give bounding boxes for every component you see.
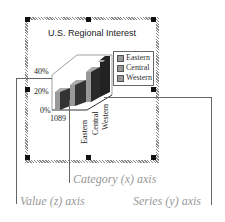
resize-handle-bl[interactable] — [25, 155, 30, 160]
legend-item-eastern: Eastern — [117, 53, 150, 62]
series-axis-leader-v — [211, 97, 212, 205]
swatch-icon — [117, 55, 124, 62]
series-label-eastern: Eastern — [80, 120, 89, 144]
series-axis-leader-h — [104, 97, 212, 98]
resize-handle-br[interactable] — [151, 155, 156, 160]
resize-handle-tr[interactable] — [151, 17, 156, 22]
x-tick-label: 1089 — [50, 114, 66, 123]
swatch-icon — [117, 75, 124, 82]
legend-item-western: Western — [117, 73, 152, 82]
chart-title: U.S. Regional Interest — [48, 28, 136, 38]
value-axis-leader-h — [16, 78, 52, 79]
z-tick-20: 20% — [34, 87, 49, 96]
resize-handle-tl[interactable] — [25, 17, 30, 22]
series-label-western: Western — [101, 104, 110, 130]
swatch-icon — [117, 65, 124, 72]
resize-handle-r[interactable] — [151, 87, 156, 92]
resize-handle-l[interactable] — [25, 87, 30, 92]
series-axis-callout: Series (y) axis — [133, 194, 201, 209]
series-label-central: Central — [91, 111, 100, 135]
value-axis-leader-v — [16, 78, 17, 204]
category-axis-leader — [69, 100, 70, 183]
resize-handle-b[interactable] — [86, 155, 91, 160]
legend[interactable]: Eastern Central Western — [113, 51, 154, 86]
legend-item-central: Central — [117, 63, 150, 72]
z-tick-40: 40% — [34, 67, 49, 76]
value-axis-callout: Value (z) axis — [20, 194, 85, 209]
resize-handle-t[interactable] — [86, 17, 91, 22]
category-axis-callout: Category (x) axis — [73, 172, 156, 187]
